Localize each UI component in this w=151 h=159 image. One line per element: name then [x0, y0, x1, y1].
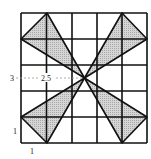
triangle-top-right — [85, 13, 148, 78]
triangle-bottom-left — [21, 78, 85, 143]
label-y-unit: 1 — [13, 127, 17, 136]
triangle-bottom-right — [85, 78, 148, 143]
triangle-top-left — [21, 13, 85, 78]
label-y-center: 3 — [10, 74, 14, 83]
label-x-center: 2.5 — [41, 74, 51, 83]
grid-diagram: 3 2.5 1 1 — [0, 0, 151, 159]
label-x-unit: 1 — [30, 147, 34, 156]
